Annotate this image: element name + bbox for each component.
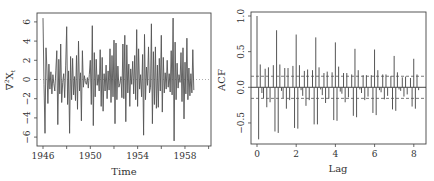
y-tick-label: 0 [22, 76, 32, 82]
x-tick-label: 2 [293, 149, 299, 159]
y-tick-label: 2 [22, 57, 32, 63]
svg-text:∇2Xt: ∇2Xt [3, 69, 16, 90]
x-tick-label: 1950 [79, 151, 102, 161]
x-tick-label: 1954 [126, 151, 149, 161]
left-x-axis-title: Time [111, 166, 136, 177]
y-tick-label: −6 [22, 130, 32, 144]
x-tick-label: 1958 [174, 151, 197, 161]
right-y-axis-title: ACF [216, 69, 227, 92]
y-tick-label: −4 [22, 111, 32, 125]
right-x-axis-title: Lag [328, 163, 348, 174]
y-tick-label: −2 [22, 92, 32, 105]
acf-spikes [257, 16, 419, 139]
figure: −6−4−20246 1946195019541958 Time ∇2Xt −0… [0, 0, 434, 181]
y-tick-label: 0.5 [236, 44, 246, 59]
right-y-axis: −0.50.00.51.0 [236, 9, 251, 134]
right-x-axis: 02468 [254, 144, 417, 159]
left-y-axis: −6−4−20246 [22, 19, 37, 144]
acf-panel: −0.50.00.51.0 02468 Lag ACF [216, 9, 426, 174]
x-tick-label: 4 [333, 149, 339, 159]
x-tick-label: 8 [411, 149, 417, 159]
x-tick-label: 1946 [32, 151, 55, 161]
left-y-axis-title: ∇2Xt [3, 69, 16, 90]
y-tick-label: −0.5 [236, 112, 246, 134]
y-tick-label: 1.0 [236, 9, 246, 24]
left-x-axis: 1946195019541958 [32, 146, 209, 161]
x-tick-label: 6 [372, 149, 378, 159]
time-series-line [43, 18, 194, 141]
time-series-panel: −6−4−20246 1946195019541958 Time ∇2Xt [3, 13, 211, 177]
y-tick-label: 0.0 [236, 80, 246, 95]
y-tick-label: 4 [22, 38, 32, 44]
x-tick-label: 0 [254, 149, 260, 159]
y-tick-label: 6 [22, 19, 32, 25]
